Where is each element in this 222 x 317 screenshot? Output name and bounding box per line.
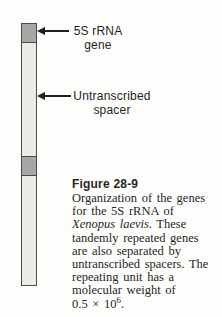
caption-text: Organization of the genes [72,191,205,205]
gene-repeat-bar [21,23,37,286]
figure-number: Figure 28-9 [72,177,222,192]
caption-text: untranscribed spacers. The [72,257,208,271]
label-line: Untranscribed [69,89,155,103]
caption-text: tandemly repeated genes [72,231,199,245]
label-5s-rrna-gene: 5S rRNA gene [69,24,127,52]
label-line: spacer [69,103,155,117]
spacer-segment-1 [22,43,36,156]
arrowhead-left-icon [37,27,45,35]
label-line: gene [69,38,127,52]
label-line: 5S rRNA [69,24,127,38]
arrow-line [45,95,71,97]
caption-text: . [121,297,124,311]
gene-segment-1 [22,24,36,43]
caption-text: for the 5S rRNA of [72,204,174,218]
caption-line: 0.5 × 106. [72,298,222,311]
arrow-line [45,30,69,32]
caption-text: repeating unit has a [72,270,174,284]
arrow-to-gene-segment [37,27,69,35]
caption-text: are also separated by [72,244,181,258]
figure-caption: Figure 28-9 Organization of the genes fo… [72,177,222,311]
caption-text: molecular weight of [72,283,176,297]
caption-text: . These [149,217,186,231]
gene-segment-2 [22,156,36,176]
label-untranscribed-spacer: Untranscribed spacer [69,89,155,117]
caption-text: 0.5 × 10 [72,297,116,311]
species-name: Xenopus laevis [72,217,149,231]
spacer-segment-2 [22,176,36,285]
figure-28-9: 5S rRNA gene Untranscribed spacer Figure… [0,0,222,317]
arrowhead-left-icon [37,92,45,100]
arrow-to-spacer-segment [37,92,71,100]
